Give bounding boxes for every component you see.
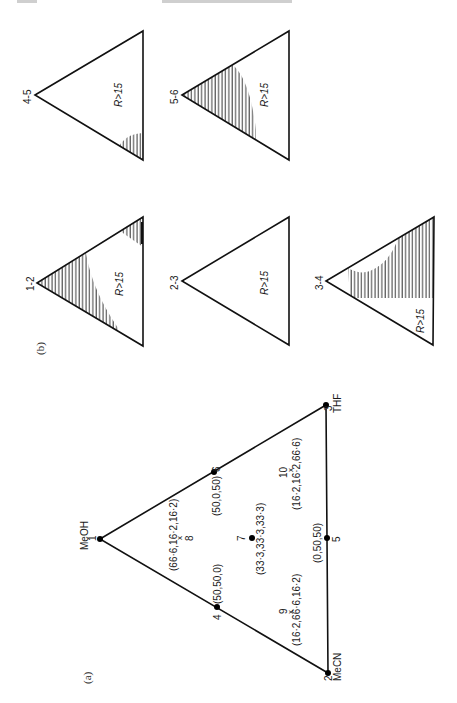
point-7-id: 7 bbox=[236, 535, 247, 541]
subplot-label: 2-3 bbox=[169, 275, 180, 290]
hatched-region bbox=[348, 217, 434, 298]
point-7-label: (33·3,33·3,33·3) bbox=[255, 503, 266, 575]
ternary-solvent-figure: (b) 4-5 R>15 5-6 R>15 bbox=[0, 0, 457, 703]
region-label: R>15 bbox=[415, 308, 426, 333]
panel-a-label: (a) bbox=[81, 671, 94, 684]
triangle-outline bbox=[182, 217, 289, 345]
running-header bbox=[162, 0, 292, 3]
point-4-label: (50,50,0) bbox=[212, 564, 223, 604]
subplot-3-4: 3-4 R>15 bbox=[314, 217, 434, 345]
panel-a: (a) 1 MeOH 2 MeCN 3 THF 4 (50,50,0) 5 (0… bbox=[79, 394, 343, 684]
point-9-id: 9 bbox=[278, 608, 289, 614]
panel-b: (b) 4-5 R>15 5-6 R>15 bbox=[22, 31, 434, 355]
point-9-label: (16·2,66·6,16·2) bbox=[291, 574, 302, 646]
point-5-id: 5 bbox=[331, 536, 342, 542]
region-label: R>15 bbox=[113, 82, 124, 107]
subplot-5-6: 5-6 R>15 bbox=[169, 31, 289, 160]
region-label: R>15 bbox=[259, 270, 270, 295]
subplot-label: 1-2 bbox=[25, 276, 36, 291]
point-4-id: 4 bbox=[212, 614, 223, 620]
region-label: R>15 bbox=[259, 82, 270, 107]
subplot-1-2: 1-2 R>15 bbox=[25, 217, 143, 346]
vertex-2-marker bbox=[325, 670, 331, 676]
region-label: R>15 bbox=[114, 271, 125, 296]
vertex-1-name: MeOH bbox=[79, 521, 90, 550]
point-10-id: 10 bbox=[278, 466, 289, 478]
subplot-label: 3-4 bbox=[314, 275, 325, 290]
point-5-marker bbox=[324, 535, 330, 541]
point-8-label: (66·6,16·2,16·2) bbox=[168, 499, 179, 571]
vertex-2-name: MeCN bbox=[332, 653, 343, 681]
panel-b-label: (b) bbox=[34, 342, 47, 355]
subplot-label: 4-5 bbox=[22, 89, 33, 104]
vertex-3-name: THF bbox=[332, 394, 343, 413]
hatched-region bbox=[120, 217, 143, 247]
hatched-region bbox=[37, 253, 118, 340]
subplot-label: 5-6 bbox=[169, 89, 180, 104]
point-5-label: (0,50,50) bbox=[312, 523, 323, 563]
point-6-id: 6 bbox=[211, 466, 222, 472]
point-10-label: (16·2,16·2,66·6) bbox=[291, 438, 302, 510]
page-number bbox=[17, 0, 37, 3]
point-6-label: (50,0,50) bbox=[211, 476, 222, 516]
subplot-4-5: 4-5 R>15 bbox=[22, 31, 143, 160]
point-8-id: 8 bbox=[184, 535, 195, 541]
subplot-2-3: 2-3 R>15 bbox=[169, 217, 289, 345]
